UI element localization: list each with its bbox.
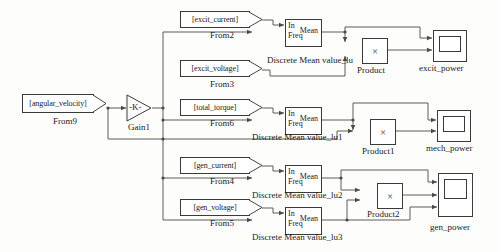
from-block-name-from6: From6: [180, 118, 264, 128]
from-block-from2[interactable]: [excit_current]: [180, 11, 250, 28]
from-tag-label: [gen_current]: [194, 161, 236, 170]
scope-block-excit-power[interactable]: [433, 30, 467, 62]
from-tag-label: [total_torque]: [194, 103, 237, 112]
mean-output-label: Mean: [300, 214, 318, 223]
from-nose-icon: [249, 158, 263, 173]
from-block-name-from2: From2: [180, 30, 264, 40]
scope-screen-icon: [439, 36, 461, 52]
from-block-from9[interactable]: [angular_velocity]: [22, 94, 94, 113]
from-nose-icon: [93, 95, 107, 112]
multiply-icon: ×: [372, 46, 378, 57]
mean-block-lu[interactable]: In Freq Mean: [285, 19, 322, 47]
product2-block[interactable]: ×: [377, 183, 403, 209]
from-nose-icon: [249, 200, 263, 215]
from-tag-label: [excit_voltage]: [192, 64, 239, 73]
product-block[interactable]: ×: [362, 38, 388, 64]
multiply-icon: ×: [380, 127, 386, 138]
mean-in-port-label: In: [288, 21, 295, 30]
from-nose-icon: [249, 100, 263, 115]
simulink-diagram-canvas: [angular_velocity] From9 -K- Gain1 [exci…: [0, 0, 500, 252]
mean-block-name-lu: Discrete Mean value_lu: [267, 55, 353, 65]
from-block-from5[interactable]: [gen_voltage]: [180, 199, 250, 216]
scope-block-name-gen-power: gen_power: [430, 222, 470, 232]
mean-block-lu1[interactable]: In Freq Mean: [285, 107, 322, 135]
from-block-name-from4: From4: [180, 176, 264, 186]
product2-block-name: Product2: [367, 209, 400, 219]
mean-block-name-lu2: Discrete Mean value_lu2: [252, 190, 342, 200]
mean-block-lu2[interactable]: In Freq Mean: [285, 165, 322, 193]
scope-block-name-mech-power: mech_power: [426, 143, 472, 153]
from-block-from6[interactable]: [total_torque]: [180, 99, 250, 116]
from-nose-icon: [249, 12, 263, 27]
mean-in-port-label: In: [288, 109, 295, 118]
scope-block-gen-power[interactable]: [438, 173, 473, 217]
scope-block-name-excit-power: excit_power: [419, 63, 463, 73]
mean-block-name-lu3: Discrete Mean value_lu3: [252, 232, 342, 242]
from-tag-label: [gen_voltage]: [193, 203, 236, 212]
gain-value-label: -K-: [129, 102, 142, 112]
from-nose-icon: [249, 61, 263, 76]
scope-screen-icon: [443, 116, 465, 132]
mean-output-label: Mean: [300, 172, 318, 181]
product1-block-name: Product1: [362, 146, 395, 156]
from-tag-label: [angular_velocity]: [29, 99, 86, 108]
product-block-name: Product: [357, 65, 385, 75]
from-block-name-from5: From5: [180, 218, 264, 228]
from-tag-label: [excit_current]: [192, 15, 238, 24]
mean-in-port-label: In: [288, 209, 295, 218]
mean-output-label: Mean: [300, 26, 318, 35]
scope-block-mech-power[interactable]: [437, 110, 471, 142]
multiply-icon: ×: [387, 191, 393, 202]
mean-block-lu3[interactable]: In Freq Mean: [285, 207, 322, 235]
from-block-name-from9: From9: [22, 116, 108, 126]
mean-output-label: Mean: [300, 114, 318, 123]
from-block-name-from3: From3: [180, 79, 264, 89]
from-block-from3[interactable]: [excit_voltage]: [180, 60, 250, 77]
from-block-from4[interactable]: [gen_current]: [180, 157, 250, 174]
product1-block[interactable]: ×: [370, 119, 396, 145]
gain-block-name-gain1: Gain1: [117, 122, 161, 132]
mean-in-port-label: In: [288, 167, 295, 176]
scope-screen-icon: [444, 179, 467, 199]
mean-block-name-lu1: Discrete Mean value_lu1: [252, 132, 342, 142]
